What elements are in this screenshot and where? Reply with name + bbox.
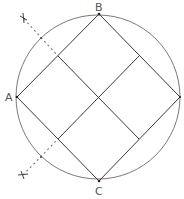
construction-diagram: A B C bbox=[0, 0, 184, 199]
side-ab bbox=[17, 14, 99, 97]
vertex-a-dot bbox=[16, 96, 19, 99]
vertex-c-dot bbox=[98, 180, 101, 183]
label-b: B bbox=[95, 1, 103, 14]
arc-intersection-bottom bbox=[40, 156, 42, 158]
label-a: A bbox=[5, 91, 13, 104]
cross-mark-bottom bbox=[18, 171, 28, 179]
arc-intersection-top bbox=[40, 37, 42, 39]
label-c: C bbox=[95, 185, 103, 198]
vertex-d-dot bbox=[179, 96, 181, 98]
cross-mark-top bbox=[20, 13, 27, 23]
